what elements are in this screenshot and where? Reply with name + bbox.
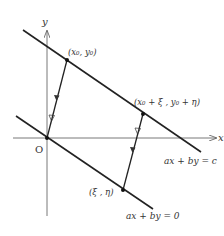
point-p0 — [65, 58, 69, 62]
arrowhead-icon — [54, 95, 60, 101]
equation-upper: ax + by = c — [164, 156, 217, 166]
vector-q-to-p1 — [123, 114, 143, 190]
y-axis-label: y — [41, 16, 48, 27]
point-origin — [45, 136, 49, 140]
label-p0: (x₀, y₀) — [68, 47, 96, 57]
point-p1 — [141, 112, 145, 116]
diagram-canvas: y x O (x₀, y₀) (x₀ + ξ , y₀ + η) (ξ , η)… — [0, 0, 224, 236]
x-axis-label: x — [218, 132, 224, 143]
equation-lower: ax + by = 0 — [126, 211, 180, 221]
label-q: (ξ , η) — [89, 187, 114, 197]
label-p1: (x₀ + ξ , y₀ + η) — [134, 97, 200, 107]
line-ax-by-c — [23, 30, 201, 152]
arrowhead-icon — [130, 147, 136, 153]
line-ax-by-0 — [16, 116, 153, 209]
vector-origin-to-p0 — [47, 60, 67, 138]
origin-label: O — [35, 144, 43, 155]
point-q — [121, 188, 125, 192]
